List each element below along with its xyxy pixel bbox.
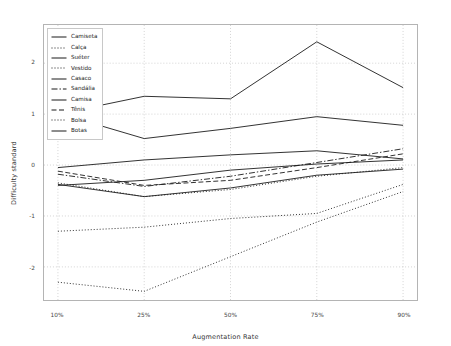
legend-item-label: Suéter (71, 55, 89, 61)
legend-line-icon (51, 127, 67, 135)
legend-item: Bolsa (51, 115, 97, 125)
y-axis-ticks: 210-1-2 (22, 0, 35, 346)
legend-line-icon (51, 44, 67, 52)
legend-item: Casaco (51, 74, 97, 84)
chart-legend: CamisetaCalçaSuéterVestidoCasacoSandália… (47, 28, 103, 140)
legend-item-label: Botas (71, 128, 87, 134)
legend-item: Suéter (51, 53, 97, 63)
legend-item-label: Camisa (71, 97, 92, 103)
legend-line-icon (51, 75, 67, 83)
x-tick-label: 10% (51, 312, 64, 318)
x-tick-label: 50% (224, 312, 237, 318)
y-tick-label: -2 (29, 265, 35, 271)
x-tick-label: 90% (398, 312, 411, 318)
legend-line-icon (51, 96, 67, 104)
x-tick-label: 25% (137, 312, 150, 318)
x-tick-label: 75% (311, 312, 324, 318)
legend-item: Camisa (51, 94, 97, 104)
y-tick-label: 1 (31, 111, 35, 117)
legend-item-label: Bolsa (71, 118, 86, 124)
x-axis-label: Augmentation Rate (0, 333, 451, 341)
legend-line-icon (51, 85, 67, 93)
y-axis-label: Difficulty standard (10, 103, 18, 243)
y-tick-label: 0 (31, 162, 35, 168)
legend-item-label: Sandália (71, 86, 95, 92)
legend-line-icon (51, 116, 67, 124)
legend-item: Vestido (51, 63, 97, 73)
y-tick-label: -1 (29, 213, 35, 219)
y-tick-label: 2 (31, 59, 35, 65)
data-series-line (58, 154, 403, 186)
legend-item: Calça (51, 42, 97, 52)
legend-item-label: Casaco (71, 76, 91, 82)
legend-item: Camiseta (51, 32, 97, 42)
legend-item-label: Tênis (71, 107, 85, 113)
legend-line-icon (51, 64, 67, 72)
legend-item-label: Calça (71, 45, 86, 51)
legend-item: Tênis (51, 105, 97, 115)
legend-item-label: Vestido (71, 66, 91, 72)
legend-line-icon (51, 106, 67, 114)
chart-figure: CamisetaCalçaSuéterVestidoCasacoSandália… (0, 0, 451, 346)
legend-line-icon (51, 33, 67, 41)
data-series-line (58, 113, 403, 138)
legend-item: Botas (51, 126, 97, 136)
data-series-line (58, 192, 403, 292)
legend-item-label: Camiseta (71, 34, 97, 40)
legend-item: Sandália (51, 84, 97, 94)
legend-line-icon (51, 54, 67, 62)
